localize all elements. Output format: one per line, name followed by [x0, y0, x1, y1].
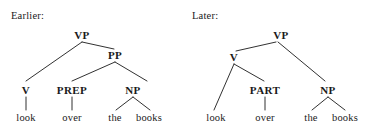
terminal-look-earlier: look — [16, 112, 35, 123]
tree-branch-lines — [0, 0, 379, 138]
branch-np-to-books-left — [133, 97, 150, 110]
node-np-later: NP — [320, 84, 335, 96]
terminal-the-later: the — [304, 112, 317, 123]
branch-np-to-books-right — [328, 97, 345, 110]
node-prep-earlier: PREP — [57, 84, 87, 96]
branch-vp-to-pp-left — [82, 42, 114, 49]
panel-caption-earlier: Earlier: — [11, 10, 44, 21]
node-vp-later: VP — [273, 29, 288, 41]
branch-vp-to-v-right — [236, 42, 276, 51]
node-v-later: V — [230, 51, 238, 63]
node-v-earlier: V — [22, 84, 30, 96]
panel-caption-later: Later: — [192, 10, 218, 21]
branch-vp-to-v-left — [26, 42, 82, 81]
terminal-the-earlier: the — [108, 112, 121, 123]
branch-v-to-part-right — [234, 64, 264, 81]
branch-np-to-the-left — [116, 97, 133, 110]
terminal-over-earlier: over — [62, 112, 81, 123]
terminal-over-later: over — [255, 112, 274, 123]
terminal-look-later: look — [206, 112, 225, 123]
branch-np-to-the-right — [312, 97, 328, 110]
terminal-books-later: books — [332, 112, 358, 123]
branch-pp-to-prep-left — [72, 62, 115, 81]
branch-pp-to-np-left — [115, 62, 147, 81]
node-part-later: PART — [250, 84, 280, 96]
terminal-books-earlier: books — [136, 112, 162, 123]
node-vp-earlier: VP — [74, 29, 89, 41]
node-pp-earlier: PP — [108, 49, 122, 61]
branch-vp-to-np-right — [278, 42, 325, 81]
syntax-tree-figure: Earlier: VP PP V PREP NP look over the b… — [0, 0, 379, 138]
branch-v-to-look-right — [214, 64, 234, 110]
node-np-earlier: NP — [125, 84, 140, 96]
